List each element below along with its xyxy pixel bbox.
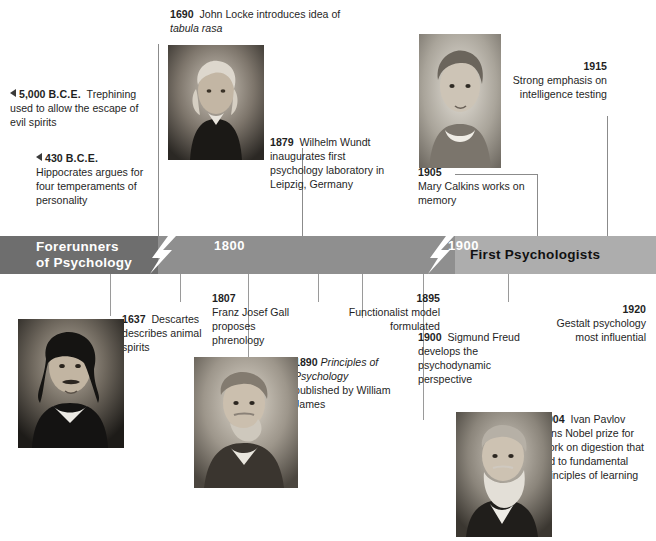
event-descartes: 1637 Descartes describes animal spirits — [122, 313, 210, 355]
event-james: 1890 Principles of Psychology published … — [294, 356, 394, 412]
event-trephining-year-num: 5,000 — [19, 88, 46, 100]
bar-title-first-psychologists: First Psychologists — [470, 236, 600, 274]
event-james-text-after: published by William James — [294, 384, 391, 410]
event-gall-year: 1807 — [212, 292, 236, 304]
event-locke-year: 1690 — [170, 8, 194, 20]
bar-year-1900: 1900 — [448, 238, 479, 253]
james-portrait — [194, 357, 298, 488]
event-gestalt-year: 1920 — [622, 303, 646, 315]
event-locke-text-italic: tabula rasa — [170, 22, 222, 34]
locke-portrait — [168, 45, 264, 160]
bar-segment-1800s — [158, 236, 455, 274]
event-intelligence-year: 1915 — [583, 60, 607, 72]
event-trephining-era: B.C.E. — [48, 88, 80, 100]
event-descartes-year: 1637 — [122, 313, 146, 325]
left-triangle-icon-trephining — [10, 89, 16, 97]
pavlov-portrait — [456, 412, 552, 537]
connector-locke — [158, 44, 159, 236]
event-functionalist-year: 1895 — [416, 292, 440, 304]
bar-title-first-psychologists-label: First Psychologists — [470, 247, 600, 263]
event-functionalist-text: Functionalist model formulated — [349, 306, 440, 332]
calkins-portrait — [419, 34, 501, 168]
event-hippocrates: 430 B.C.E. Hippocrates argues for four t… — [36, 152, 158, 208]
event-freud: 1900 Sigmund Freud develops the psychody… — [418, 331, 530, 387]
tick-gall — [180, 274, 181, 302]
descartes-portrait — [18, 319, 124, 448]
bar-title-forerunners-line2: of Psychology — [36, 255, 132, 271]
tick-functionalist — [318, 274, 319, 302]
event-intelligence-text: Strong emphasis on intelligence testing — [513, 74, 607, 100]
event-gall: 1807 Franz Josef Gall proposes phrenolog… — [212, 292, 300, 348]
event-locke: 1690 John Locke introduces idea of tabul… — [170, 8, 342, 36]
event-hippocrates-era: B.C.E. — [66, 152, 98, 164]
event-hippocrates-text: Hippocrates argues for four temperaments… — [36, 166, 143, 206]
bar-title-forerunners: Forerunners of Psychology — [36, 236, 132, 274]
event-calkins: 1905 Mary Calkins works on memory — [418, 166, 538, 208]
lightning-break-icon-1 — [146, 236, 182, 274]
event-trephining: 5,000 B.C.E. Trephining used to allow th… — [10, 88, 152, 130]
event-hippocrates-year-num: 430 — [45, 152, 63, 164]
event-gestalt-text: Gestalt psychology most influential — [556, 317, 646, 343]
event-locke-text: John Locke introduces idea of — [199, 8, 340, 20]
left-triangle-icon-hippocrates — [36, 153, 42, 161]
event-intelligence: 1915 Strong emphasis on intelligence tes… — [487, 60, 607, 102]
event-wundt-year: 1879 — [270, 136, 294, 148]
event-gestalt: 1920 Gestalt psychology most influential — [540, 303, 646, 345]
bar-title-forerunners-line1: Forerunners — [36, 239, 132, 255]
timeline-infographic: Forerunners of Psychology First Psycholo… — [0, 0, 656, 541]
tick-descartes — [110, 274, 111, 316]
event-pavlov: 1904 Ivan Pavlov wins Nobel prize for wo… — [541, 413, 647, 483]
event-calkins-text: Mary Calkins works on memory — [418, 180, 525, 206]
tick-gestalt — [508, 274, 509, 302]
event-gall-text: Franz Josef Gall proposes phrenology — [212, 306, 289, 346]
bar-year-1800: 1800 — [214, 238, 245, 253]
connector-intelligence — [607, 116, 608, 236]
event-freud-year: 1900 — [418, 331, 442, 343]
event-functionalist: 1895 Functionalist model formulated — [330, 292, 440, 334]
event-wundt: 1879 Wilhelm Wundt inaugurates first psy… — [270, 136, 388, 192]
timeline-bar: Forerunners of Psychology First Psycholo… — [0, 236, 656, 274]
